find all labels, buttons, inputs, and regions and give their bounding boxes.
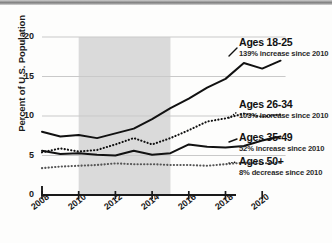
legend-item-ages-50-: Ages 50+8% decrease since 2010 [239,155,322,177]
chart-page: Percent of U.S. Population 05101520 2008… [0,0,332,243]
legend-item-title: Ages 35-49 [239,131,324,143]
legend-item-subtitle: 103% increase since 2010 [239,111,328,120]
legend-item-title: Ages 18-25 [239,36,328,48]
legend-item-subtitle: 8% decrease since 2010 [239,168,322,177]
legend-item-subtitle: 139% increase since 2010 [239,49,328,58]
legend-item-title: Ages 26-34 [239,98,328,110]
legend-item-ages-18-25: Ages 18-25139% increase since 2010 [239,36,328,58]
legend-item-ages-26-34: Ages 26-34103% increase since 2010 [239,98,328,120]
legend-item-ages-35-49: Ages 35-4952% increase since 2010 [239,131,324,153]
legend-item-title: Ages 50+ [239,155,322,167]
legend-item-subtitle: 52% increase since 2010 [239,144,324,153]
